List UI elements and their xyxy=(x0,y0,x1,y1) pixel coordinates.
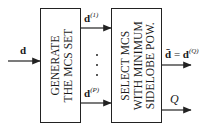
select-line-2: WITH MINIMUM xyxy=(131,8,144,123)
equals-sign: = xyxy=(174,48,180,60)
generate-mcs-block: GENERATE THE MCS SET xyxy=(40,8,81,123)
output-dbar: d̄ xyxy=(165,48,171,60)
label-dP: d(P) xyxy=(84,86,99,99)
select-block-text: SELECT MCS WITH MINIMUM SIDELOBE POW. xyxy=(119,8,157,123)
output-dQ-sup: (Q) xyxy=(189,47,199,55)
label-d1: d(1) xyxy=(84,11,98,24)
generate-line-1: GENERATE xyxy=(49,8,62,123)
generate-line-2: THE MCS SET xyxy=(62,8,75,123)
output-selected-label: d̄ = d(Q) xyxy=(165,47,199,60)
output-Q-label: Q xyxy=(170,92,179,107)
select-line-3: SIDELOBE POW. xyxy=(144,8,157,123)
label-dP-sup: (P) xyxy=(90,86,99,94)
select-mcs-block: SELECT MCS WITH MINIMUM SIDELOBE POW. xyxy=(111,8,162,123)
label-d1-sup: (1) xyxy=(90,11,98,19)
select-line-1: SELECT MCS xyxy=(119,8,132,123)
generate-block-text: GENERATE THE MCS SET xyxy=(49,8,74,123)
input-label: d xyxy=(20,44,26,56)
connector-arrows xyxy=(0,0,212,130)
